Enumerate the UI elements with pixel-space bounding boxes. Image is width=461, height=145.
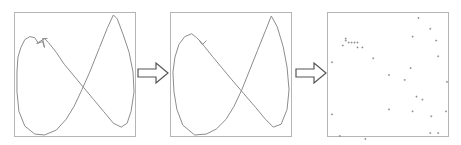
smoothed-stroke-panel: Smoothed figure-eight stroke (170, 12, 292, 137)
smoothed-stroke-plot (171, 13, 291, 136)
raw-stroke-plot (15, 13, 135, 136)
sampled-points-panel: Sampled points (327, 12, 449, 137)
raw-stroke-panel: Raw figure-eight stroke (14, 12, 136, 137)
figure-eight-stroke (173, 16, 289, 135)
figure-eight-stroke (17, 15, 134, 135)
sampled-points-plot (328, 13, 448, 136)
arrow-right-icon: to smoothed (137, 62, 169, 84)
arrow-right-icon: to sampled (295, 62, 327, 84)
